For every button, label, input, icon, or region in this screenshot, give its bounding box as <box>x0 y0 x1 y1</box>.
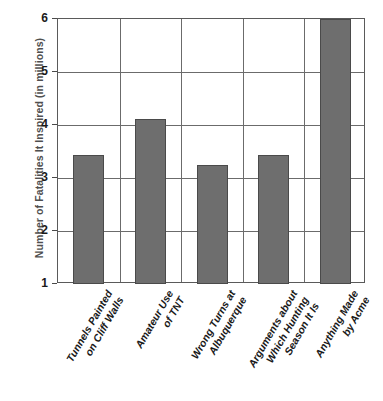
gridline-vertical <box>120 19 121 282</box>
gridline-vertical <box>181 19 182 282</box>
bar <box>197 165 228 284</box>
gridline-vertical <box>304 19 305 282</box>
y-tick-label: 4 <box>17 117 57 131</box>
bar <box>258 155 289 284</box>
gridline-vertical <box>243 19 244 282</box>
y-tick-label: 1 <box>17 276 57 290</box>
bar-chart: Number of Fatalities It Inspired (in mil… <box>0 0 383 401</box>
y-axis-title: Number of Fatalities It Inspired (in mil… <box>33 13 45 283</box>
y-tick-label: 6 <box>17 11 57 25</box>
y-tick-label: 5 <box>17 64 57 78</box>
y-tick-label: 3 <box>17 170 57 184</box>
gridline-horizontal <box>58 125 364 126</box>
gridline-horizontal <box>58 72 364 73</box>
y-tick-label: 2 <box>17 223 57 237</box>
bar <box>73 155 104 284</box>
bar <box>320 19 351 284</box>
plot-area <box>57 18 365 283</box>
bar <box>135 119 166 284</box>
